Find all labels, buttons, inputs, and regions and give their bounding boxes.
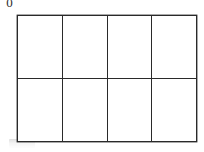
grid-cell-r1c3[interactable] [152, 79, 197, 142]
grid-cell-label [63, 16, 107, 78]
grid-cell-label [152, 79, 196, 141]
grid-cell-label [18, 16, 62, 78]
table-row [18, 79, 197, 142]
grid-cell-r0c3[interactable] [152, 16, 197, 79]
grid-cell-label [18, 79, 62, 141]
grid-cell-label [108, 16, 152, 78]
grid-cell-r1c2[interactable] [107, 79, 152, 142]
corner-glyph: 0 [4, 0, 15, 9]
grid-cell-r0c2[interactable] [107, 16, 152, 79]
grid-cell-r1c1[interactable] [62, 79, 107, 142]
grid-table [17, 15, 197, 142]
grid-cell-r1c0[interactable] [18, 79, 63, 142]
figure-canvas: 0 [0, 0, 204, 152]
grid-cell-r0c0[interactable] [18, 16, 63, 79]
grid-cell-label [108, 79, 152, 141]
grid-cell-label [63, 79, 107, 141]
grid-body [18, 16, 197, 142]
grid-cell-label [152, 16, 196, 78]
table-row [18, 16, 197, 79]
grid-cell-r0c1[interactable] [62, 16, 107, 79]
